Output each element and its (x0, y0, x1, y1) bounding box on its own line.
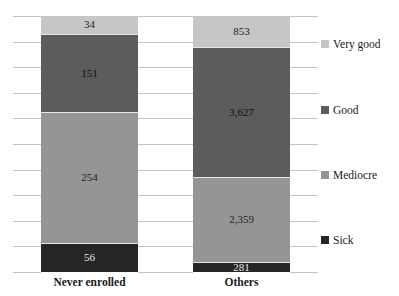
segment-very-good: 853 (193, 16, 290, 47)
legend-item-very-good: Very good (321, 38, 381, 50)
segment-mediocre: 2,359 (193, 177, 290, 262)
gridline (13, 16, 41, 17)
data-label: 281 (233, 262, 250, 273)
gridline (290, 195, 318, 196)
gridline (13, 195, 41, 196)
gridline (290, 16, 318, 17)
segment-good: 151 (41, 34, 138, 112)
gridline (13, 42, 41, 43)
gridline (138, 246, 193, 247)
gridline (13, 144, 41, 145)
gridline (138, 221, 193, 222)
gridline (13, 221, 41, 222)
gridline (290, 93, 318, 94)
gridline (138, 144, 193, 145)
legend-item-good: Good (321, 104, 359, 116)
gridline (138, 170, 193, 171)
segment-sick: 56 (41, 243, 138, 272)
legend-label: Mediocre (333, 169, 377, 181)
gridline (138, 16, 193, 17)
segment-very-good: 34 (41, 16, 138, 34)
gridline (138, 118, 193, 119)
segment-good: 3,627 (193, 47, 290, 177)
gridline (138, 93, 193, 94)
segment-mediocre: 254 (41, 112, 138, 243)
swatch-very-good (321, 40, 329, 48)
gridline (138, 67, 193, 68)
gridline (290, 67, 318, 68)
gridline (13, 246, 41, 247)
swatch-sick (321, 236, 329, 244)
category-label-others: Others (188, 276, 295, 288)
data-label: 151 (81, 68, 98, 79)
gridline (13, 272, 41, 273)
gridline (138, 272, 193, 273)
swatch-mediocre (321, 171, 329, 179)
legend-label: Good (333, 104, 359, 116)
gridline (290, 272, 318, 273)
segment-sick: 281 (193, 262, 290, 272)
stacked-bar-chart: 34 151 254 56 853 3,627 2,359 281 Never … (0, 0, 399, 296)
legend-item-mediocre: Mediocre (321, 169, 377, 181)
swatch-good (321, 106, 329, 114)
gridline (138, 42, 193, 43)
gridline (290, 118, 318, 119)
bar-others: 853 3,627 2,359 281 (193, 16, 290, 272)
legend-label: Sick (333, 234, 353, 246)
legend-label: Very good (333, 38, 381, 50)
gridline (290, 246, 318, 247)
legend-item-sick: Sick (321, 234, 353, 246)
gridline (13, 93, 41, 94)
gridline (138, 195, 193, 196)
gridline (13, 170, 41, 171)
gridline (290, 42, 318, 43)
gridline (290, 170, 318, 171)
bar-never-enrolled: 34 151 254 56 (41, 16, 138, 272)
gridline (13, 118, 41, 119)
data-label: 34 (84, 19, 95, 30)
gridline (290, 144, 318, 145)
data-label: 56 (84, 252, 95, 263)
gridline (290, 221, 318, 222)
data-label: 2,359 (229, 214, 254, 225)
data-label: 853 (233, 26, 250, 37)
data-label: 3,627 (229, 107, 254, 118)
category-label-never-enrolled: Never enrolled (36, 276, 143, 288)
data-label: 254 (81, 172, 98, 183)
gridline (13, 67, 41, 68)
